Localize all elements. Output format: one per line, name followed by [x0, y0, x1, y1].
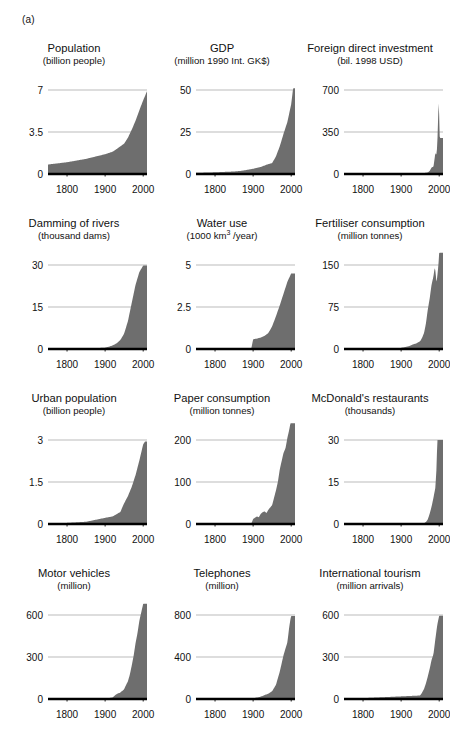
chart-title-block: Paper consumption(million tonnes)	[148, 384, 296, 417]
x-axis-tick-labels: 180019002000	[148, 709, 296, 723]
y-axis-tick-label: 800	[174, 610, 191, 621]
chart-subtitle: (1000 km3 /year)	[148, 230, 296, 241]
chart-subtitle: (billion people)	[0, 405, 148, 416]
chart-plot-area	[0, 436, 148, 532]
chart-panel: McDonald's restaurants(thousands)0153018…	[296, 384, 444, 559]
x-axis-tick-labels: 180019002000	[296, 534, 444, 548]
series-area	[196, 273, 295, 349]
y-axis-tick-label: 15	[328, 477, 339, 488]
chart-subtitle: (million)	[0, 580, 148, 591]
chart-panel: Paper consumption(million tonnes)0100200…	[148, 384, 296, 559]
chart-panel: Fertiliser consumption(million tonnes)07…	[296, 209, 444, 384]
x-axis-tick-label: 1800	[352, 359, 374, 370]
y-axis-tick-label: 300	[26, 652, 43, 663]
chart-plot-area	[148, 611, 296, 707]
chart-panel: International tourism(million arrivals)0…	[296, 559, 444, 730]
y-axis-tick-label: 400	[174, 652, 191, 663]
x-axis-tick-labels: 180019002000	[296, 709, 444, 723]
y-axis-tick-label: 0	[333, 694, 339, 705]
x-axis-tick-label: 2000	[428, 534, 450, 545]
x-axis-tick-label: 1900	[390, 359, 412, 370]
y-axis-tick-label: 0	[333, 344, 339, 355]
y-axis-tick-label: 0	[185, 694, 191, 705]
chart-plot-area	[296, 261, 444, 357]
chart-subtitle: (million arrivals)	[296, 580, 444, 591]
x-axis-tick-label: 1800	[56, 184, 78, 195]
chart-plot-area	[148, 86, 296, 182]
chart-title: GDP	[148, 42, 296, 55]
y-axis-tick-label: 50	[180, 85, 191, 96]
chart-subtitle-suffix: /year)	[230, 230, 257, 241]
y-axis-tick-label: 0	[37, 344, 43, 355]
chart-panel: Damming of rivers(thousand dams)01530180…	[0, 209, 148, 384]
chart-title-block: Motor vehicles(million)	[0, 559, 148, 592]
y-axis-tick-label: 1.5	[29, 477, 43, 488]
chart-subtitle: (million)	[148, 580, 296, 591]
y-axis-tick-label: 3.5	[29, 127, 43, 138]
x-axis-tick-labels: 180019002000	[148, 184, 296, 198]
x-axis-tick-labels: 180019002000	[148, 359, 296, 373]
x-axis-tick-label: 1900	[94, 184, 116, 195]
x-axis-tick-label: 1900	[242, 184, 264, 195]
chart-title: Foreign direct investment	[296, 42, 444, 55]
chart-subtitle: (million 1990 Int. GK$)	[148, 55, 296, 66]
x-axis-tick-labels: 180019002000	[148, 534, 296, 548]
y-axis-tick-label: 2.5	[177, 302, 191, 313]
chart-title-block: Urban population(billion people)	[0, 384, 148, 417]
chart-subtitle: (thousands)	[296, 405, 444, 416]
chart-title-block: McDonald's restaurants(thousands)	[296, 384, 444, 417]
chart-plot-area	[0, 261, 148, 357]
y-axis-tick-label: 0	[37, 519, 43, 530]
y-axis-tick-label: 30	[32, 260, 43, 271]
series-area	[196, 423, 295, 524]
y-axis-tick-label: 0	[185, 169, 191, 180]
chart-plot-area	[148, 261, 296, 357]
chart-title-block: GDP(million 1990 Int. GK$)	[148, 34, 296, 67]
x-axis-tick-label: 2000	[428, 709, 450, 720]
y-axis-tick-label: 3	[37, 435, 43, 446]
x-axis-tick-label: 1800	[352, 184, 374, 195]
y-axis-tick-label: 150	[322, 260, 339, 271]
chart-title: Population	[0, 42, 148, 55]
y-axis-tick-label: 600	[322, 610, 339, 621]
chart-plot-area	[0, 611, 148, 707]
y-axis-tick-label: 300	[322, 652, 339, 663]
y-axis-tick-label: 75	[328, 302, 339, 313]
chart-panel: Telephones(million)0400800180019002000	[148, 559, 296, 730]
chart-title: McDonald's restaurants	[296, 392, 444, 405]
y-axis-tick-label: 0	[185, 519, 191, 530]
chart-title: Damming of rivers	[0, 217, 148, 230]
chart-subtitle: (billion people)	[0, 55, 148, 66]
x-axis-tick-label: 1800	[352, 709, 374, 720]
chart-plot-area	[148, 436, 296, 532]
series-area	[344, 253, 443, 349]
x-axis-tick-labels: 180019002000	[0, 709, 148, 723]
chart-panel: Population(billion people)03.57180019002…	[0, 34, 148, 209]
chart-title-block: Damming of rivers(thousand dams)	[0, 209, 148, 242]
series-area	[344, 104, 443, 174]
x-axis-tick-label: 1900	[94, 709, 116, 720]
x-axis-tick-label: 1800	[204, 709, 226, 720]
y-axis-tick-label: 600	[26, 610, 43, 621]
chart-title: Paper consumption	[148, 392, 296, 405]
chart-title-block: Telephones(million)	[148, 559, 296, 592]
x-axis-tick-labels: 180019002000	[0, 359, 148, 373]
x-axis-tick-label: 1900	[390, 534, 412, 545]
y-axis-tick-label: 5	[185, 260, 191, 271]
chart-title-block: Fertiliser consumption(million tonnes)	[296, 209, 444, 242]
chart-plot-area	[0, 86, 148, 182]
chart-panel: GDP(million 1990 Int. GK$)02550180019002…	[148, 34, 296, 209]
x-axis-tick-label: 1900	[242, 359, 264, 370]
y-axis-tick-label: 0	[37, 169, 43, 180]
x-axis-tick-label: 2000	[428, 359, 450, 370]
chart-subtitle-prefix: (1000 km	[186, 230, 226, 241]
y-axis-tick-label: 0	[37, 694, 43, 705]
x-axis-tick-label: 1800	[56, 709, 78, 720]
x-axis-tick-label: 1900	[242, 709, 264, 720]
series-area	[48, 441, 147, 524]
x-axis-tick-label: 1800	[56, 534, 78, 545]
chart-subtitle: (thousand dams)	[0, 230, 148, 241]
chart-subtitle: (million tonnes)	[148, 405, 296, 416]
y-axis-tick-label: 25	[180, 127, 191, 138]
x-axis-tick-label: 1900	[242, 534, 264, 545]
